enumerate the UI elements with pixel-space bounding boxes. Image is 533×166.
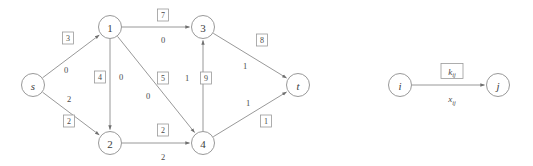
node-label-n4: 4 bbox=[200, 138, 206, 150]
diagram-canvas: s1234t 302240705022918111 ijkijxij bbox=[0, 0, 533, 166]
node-t[interactable]: t bbox=[287, 74, 310, 97]
node-label-n1: 1 bbox=[107, 22, 113, 34]
capacity-value-4-t: 1 bbox=[264, 117, 268, 126]
capacity-value-3-t: 8 bbox=[260, 36, 264, 45]
capacity-value-s-1: 3 bbox=[66, 34, 70, 43]
capacity-box-1-2: 4 bbox=[95, 71, 106, 83]
node-n2[interactable]: 2 bbox=[99, 132, 122, 155]
flow-value-4-t: 1 bbox=[246, 98, 250, 108]
flow-value-1-4: 0 bbox=[146, 91, 150, 101]
capacity-value-1-4: 5 bbox=[161, 74, 165, 83]
flow-value-s-1: 0 bbox=[64, 65, 68, 75]
capacity-box-s-2: 2 bbox=[64, 115, 75, 127]
node-label-n2: 2 bbox=[107, 138, 113, 150]
flow-value-2-4: 2 bbox=[161, 152, 165, 162]
edge-labels-3-t: 81 bbox=[243, 34, 268, 71]
edge-3-t bbox=[213, 33, 286, 78]
flow-value-3-t: 1 bbox=[243, 61, 247, 71]
flow-value-1-3: 0 bbox=[161, 35, 165, 45]
node-label-n3: 3 bbox=[200, 22, 206, 34]
capacity-box-3-t: 8 bbox=[257, 34, 268, 46]
capacity-value-1-3: 7 bbox=[161, 11, 165, 20]
edge-labels-layer: 302240705022918111 bbox=[63, 9, 272, 162]
edge-1-4 bbox=[118, 36, 195, 132]
edge-labels-1-2: 40 bbox=[95, 71, 124, 83]
legend-node-j[interactable]: j bbox=[487, 74, 510, 97]
flow-network-diagram: s1234t 302240705022918111 ijkijxij bbox=[0, 0, 533, 166]
capacity-value-s-2: 2 bbox=[67, 117, 71, 126]
capacity-box-4-3: 9 bbox=[201, 72, 212, 84]
node-s[interactable]: s bbox=[22, 74, 45, 97]
flow-value-4-3: 1 bbox=[185, 73, 189, 83]
node-n1[interactable]: 1 bbox=[99, 16, 122, 39]
node-n3[interactable]: 3 bbox=[192, 16, 215, 39]
node-n4[interactable]: 4 bbox=[192, 132, 215, 155]
legend-node-i-label: i bbox=[398, 80, 401, 92]
flow-value-s-2: 2 bbox=[67, 94, 71, 104]
capacity-box-2-4: 2 bbox=[158, 124, 169, 136]
capacity-value-1-2: 4 bbox=[98, 73, 102, 82]
edge-labels-4-t: 11 bbox=[246, 98, 272, 127]
flow-value-1-2: 0 bbox=[119, 72, 123, 82]
legend-flow-text: xij bbox=[447, 94, 456, 105]
capacity-box-1-4: 5 bbox=[158, 72, 169, 84]
capacity-box-4-t: 1 bbox=[261, 115, 272, 127]
capacity-value-4-3: 9 bbox=[204, 74, 208, 83]
edge-labels-4-3: 91 bbox=[185, 72, 212, 84]
capacity-value-2-4: 2 bbox=[161, 126, 165, 135]
capacity-box-1-3: 7 bbox=[158, 9, 169, 21]
legend-layer: ijkijxij bbox=[389, 64, 510, 106]
legend-node-i[interactable]: i bbox=[389, 74, 412, 97]
capacity-box-s-1: 3 bbox=[63, 32, 74, 44]
edge-labels-s-2: 22 bbox=[64, 94, 75, 127]
edge-labels-s-1: 30 bbox=[63, 32, 74, 75]
legend-capacity-box: kij bbox=[441, 64, 463, 79]
node-label-s: s bbox=[31, 80, 35, 92]
